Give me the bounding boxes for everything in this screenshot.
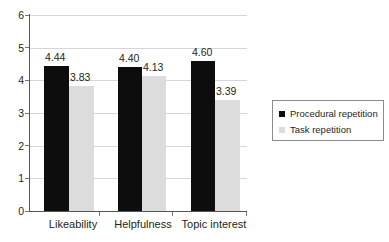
gridline-6: [30, 15, 247, 16]
value-label-task-likeability: 3.83: [70, 72, 90, 83]
x-axis-label-topic-interest: Topic interest: [171, 218, 257, 231]
y-axis-tick-label-4: 4: [0, 75, 24, 85]
y-axis-tick-label-3: 3: [0, 108, 24, 118]
x-axis-line: [29, 211, 247, 212]
legend-label-task: Task repetition: [290, 125, 351, 135]
bar-task-likeability[interactable]: [69, 86, 94, 211]
legend-label-procedural: Procedural repetition: [290, 109, 378, 119]
value-label-procedural-likeability: 4.44: [45, 52, 65, 63]
y-axis-tick-label-6: 6: [0, 10, 24, 20]
x-axis-label-likeability: Likeability: [33, 218, 113, 231]
value-label-procedural-topic-interest: 4.60: [192, 47, 212, 58]
legend-swatch-icon-procedural: [279, 111, 285, 117]
bar-procedural-likeability[interactable]: [44, 66, 69, 211]
bar-chart-figure: 6 5 4 3 2 1 0 4.44 3.83 4.40 4.13 4.60 3…: [0, 0, 389, 242]
bar-task-helpfulness[interactable]: [142, 76, 166, 211]
gridline-5: [30, 48, 247, 49]
value-label-task-helpfulness: 4.13: [143, 62, 163, 73]
legend-item-procedural-repetition[interactable]: Procedural repetition: [279, 109, 378, 119]
y-axis-line: [29, 14, 30, 212]
y-axis-tick-label-2: 2: [0, 141, 24, 151]
y-axis-tick-label-1: 1: [0, 173, 24, 183]
value-label-procedural-helpfulness: 4.40: [119, 53, 139, 64]
y-axis-tick-label-0: 0: [0, 206, 24, 216]
plot-area: [30, 15, 247, 211]
legend: Procedural repetition Task repetition: [272, 100, 384, 141]
legend-item-task-repetition[interactable]: Task repetition: [279, 125, 351, 135]
bar-procedural-topic-interest[interactable]: [191, 61, 215, 211]
bar-task-topic-interest[interactable]: [215, 100, 240, 211]
y-axis-tick-label-5: 5: [0, 43, 24, 53]
value-label-task-topic-interest: 3.39: [216, 86, 236, 97]
bar-procedural-helpfulness[interactable]: [118, 67, 142, 211]
legend-swatch-icon-task: [279, 127, 285, 133]
